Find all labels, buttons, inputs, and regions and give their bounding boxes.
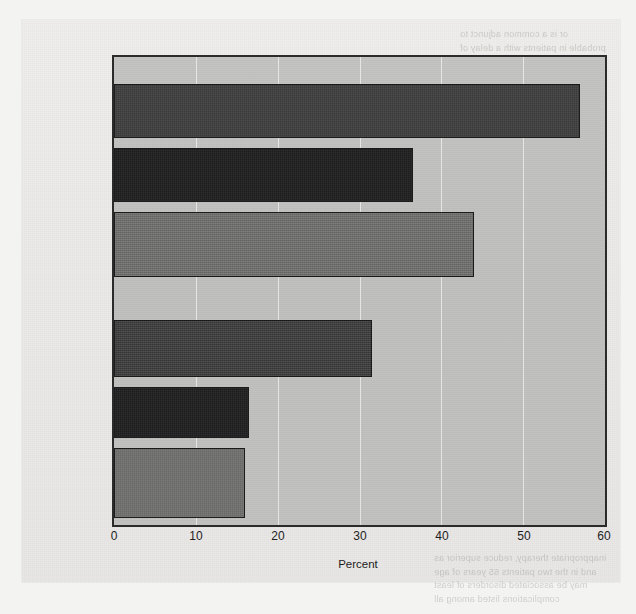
x-axis-title: Percent	[0, 558, 636, 570]
x-tick-0: 0	[94, 529, 134, 543]
x-tick-10: 10	[176, 529, 216, 543]
x-axis-title-text: Percent	[338, 558, 378, 570]
x-tick-60: 60	[584, 529, 624, 543]
x-tick-20: 20	[258, 529, 298, 543]
figure-page: or is a common adjunct to probable in pa…	[0, 0, 636, 614]
category-labels: Influenza White, non-Hispanic Black, non…	[0, 0, 636, 614]
x-tick-50: 50	[504, 529, 544, 543]
x-tick-30: 30	[340, 529, 380, 543]
x-tick-40: 40	[422, 529, 462, 543]
